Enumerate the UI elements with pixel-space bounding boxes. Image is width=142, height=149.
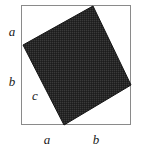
diagram-canvas [0, 0, 142, 149]
pythagorean-diagram: a b c a b [0, 0, 142, 149]
label-side-a-left: a [9, 25, 16, 38]
label-side-b-left: b [9, 75, 16, 88]
label-side-b-bottom: b [93, 133, 100, 146]
label-hypotenuse-c: c [32, 89, 38, 102]
label-side-a-bottom: a [44, 133, 51, 146]
